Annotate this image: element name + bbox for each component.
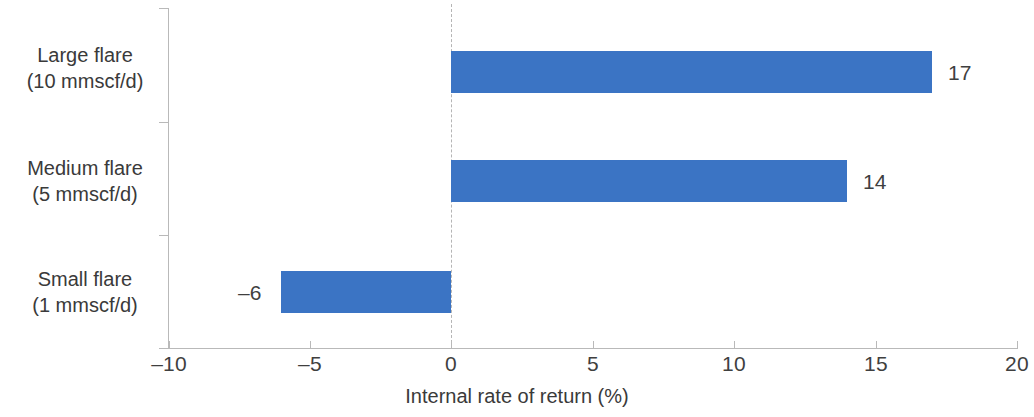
bar-medium-flare [451,160,847,202]
x-axis-tick-label: 10 [694,352,774,376]
x-axis-tick [451,341,452,349]
y-axis-tick [159,122,169,123]
y-axis-tick [159,8,169,9]
x-axis-tick-label: 20 [977,352,1034,376]
category-label-line1: Small flare [5,266,165,292]
category-label-line2: (10 mmscf/d) [5,68,165,94]
x-axis-tick-label: 15 [836,352,916,376]
x-axis-tick-label: 0 [411,352,491,376]
internal-rate-of-return-bar-chart: Large flare (10 mmscf/d) Medium flare (5… [0,0,1034,417]
category-label-medium-flare: Medium flare (5 mmscf/d) [5,155,165,207]
x-axis-title: Internal rate of return (%) [0,385,1034,408]
y-axis-tick [159,235,169,236]
x-axis-tick [1017,341,1018,349]
x-axis-tick [876,341,877,349]
x-axis-tick-label: –5 [270,352,350,376]
y-axis-line [168,8,169,349]
x-axis-tick [734,341,735,349]
bar-value-large-flare: 17 [948,62,971,83]
category-label-large-flare: Large flare (10 mmscf/d) [5,42,165,94]
category-label-line2: (1 mmscf/d) [5,292,165,318]
bar-small-flare [281,271,451,313]
x-axis-tick-label: –10 [129,352,209,376]
category-label-small-flare: Small flare (1 mmscf/d) [5,266,165,318]
x-axis-tick [169,341,170,349]
bar-large-flare [451,51,932,93]
x-axis-tick-label: 5 [553,352,633,376]
category-label-line1: Large flare [5,42,165,68]
bar-value-medium-flare: 14 [863,171,886,192]
bar-value-small-flare: –6 [238,282,261,303]
category-label-line1: Medium flare [5,155,165,181]
x-axis-tick [593,341,594,349]
x-axis-tick [310,341,311,349]
category-label-line2: (5 mmscf/d) [5,181,165,207]
